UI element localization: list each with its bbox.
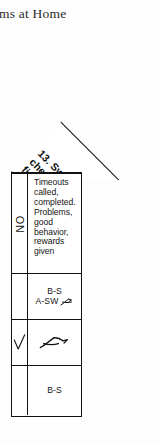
table-row[interactable]: NO Timeouts called, completed. Problems,… (12, 174, 81, 274)
code-line: B-S (36, 286, 74, 297)
row-data-cell[interactable]: B-S A-SW (28, 274, 81, 319)
row-mark-cell[interactable] (12, 320, 28, 365)
table-row[interactable] (12, 320, 81, 366)
row-mark-cell[interactable] (12, 366, 28, 415)
table-row[interactable]: B-S A-SW (12, 274, 81, 320)
table-row[interactable]: B-S (12, 366, 81, 415)
diagonal-header-area: 13. Swearing, lying, cheating, stealing,… (0, 0, 160, 180)
scanned-form-page: blems at Home 13. Swearing, lying, cheat… (0, 0, 160, 442)
note-line: given (34, 247, 77, 257)
vertical-no-label: NO (14, 215, 26, 233)
checkmark-icon (13, 334, 26, 351)
handwritten-scribble-icon (38, 335, 72, 351)
code-text: B-S A-SW (36, 286, 74, 307)
row-mark-cell[interactable]: NO (12, 174, 28, 273)
code-text: B-S (47, 385, 62, 396)
form-table: NO Timeouts called, completed. Problems,… (11, 172, 82, 417)
handwritten-initial-icon (60, 297, 73, 307)
row-mark-cell[interactable] (12, 274, 28, 319)
row-data-cell[interactable] (28, 320, 81, 365)
row-data-cell[interactable]: Timeouts called, completed. Problems, go… (28, 174, 81, 273)
code-label: A-SW (36, 296, 59, 307)
note-text: Timeouts called, completed. Problems, go… (30, 174, 79, 257)
code-line: B-S (47, 385, 62, 396)
code-line-with-annotation: A-SW (36, 296, 74, 307)
row-data-cell[interactable]: B-S (28, 366, 81, 415)
